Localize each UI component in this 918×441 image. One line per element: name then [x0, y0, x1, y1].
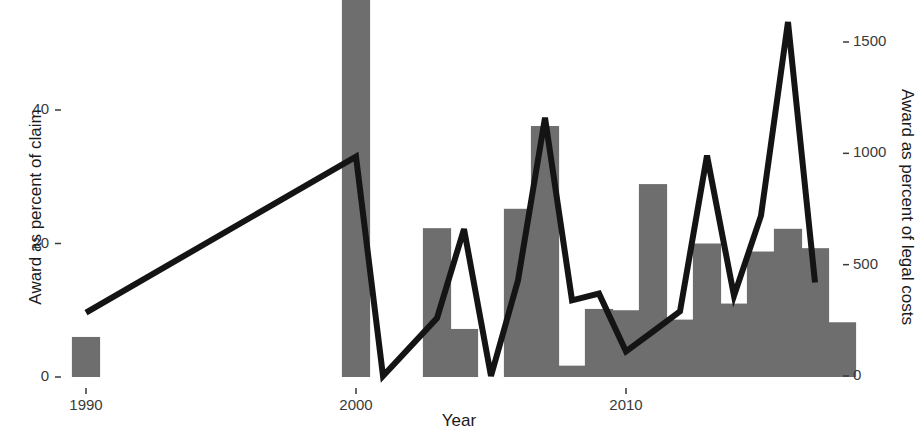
bar-2016: [774, 229, 802, 377]
bar-2000: [342, 0, 370, 377]
bar-2008: [558, 366, 586, 377]
bar-2015: [747, 252, 775, 377]
plot-area: [0, 0, 918, 441]
y-axis-right-tick-1000: [843, 153, 849, 155]
x-axis-title: Year: [0, 411, 918, 431]
y-axis-right-tick-1500: [843, 41, 849, 43]
bar-2014: [720, 304, 748, 377]
y-axis-left-title: Award as percent of claim: [26, 87, 46, 327]
y-axis-left-tick-40: [55, 109, 61, 111]
x-axis-tick-2000: [355, 388, 357, 394]
y-axis-left-tick-20: [55, 243, 61, 245]
y-axis-right-tick-label-0: 0: [853, 366, 913, 383]
x-axis-tick-1990: [85, 388, 87, 394]
bar-2012: [666, 320, 694, 377]
y-axis-left-tick-label-0: 0: [5, 367, 49, 384]
y-axis-right-tick-500: [843, 264, 849, 266]
y-axis-right-tick-0: [843, 375, 849, 377]
chart-svg: [0, 0, 918, 441]
bar-series-group: [72, 0, 856, 377]
y-axis-left-tick-0: [55, 376, 61, 378]
bar-2013: [693, 244, 721, 378]
bar-1990: [72, 337, 100, 377]
bar-2003: [423, 228, 451, 377]
y-axis-right-title: Award as percent of legal costs: [897, 82, 917, 332]
chart-root: 02040050010001500199020002010 Award as p…: [0, 0, 918, 441]
y-axis-right-tick-label-1500: 1500: [853, 32, 913, 49]
x-axis-tick-2010: [625, 388, 627, 394]
bar-2004: [450, 329, 478, 377]
bar-2011: [639, 184, 667, 377]
bar-2018: [828, 322, 856, 377]
